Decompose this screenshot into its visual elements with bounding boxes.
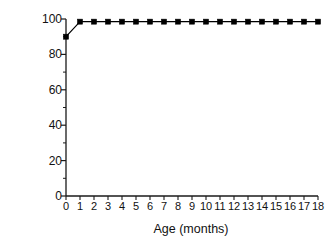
data-point-marker [106, 19, 111, 24]
data-point-marker [204, 19, 209, 24]
axis-ticks [61, 19, 318, 200]
data-series [64, 19, 321, 39]
data-point-marker [78, 19, 83, 24]
data-point-marker [260, 19, 265, 24]
data-point-marker [64, 34, 69, 39]
data-point-marker [232, 19, 237, 24]
data-point-marker [288, 19, 293, 24]
data-point-marker [316, 19, 321, 24]
data-point-marker [274, 19, 279, 24]
axes-group [66, 19, 318, 196]
chart-figure: Infants (%) 020406080100 012345678910111… [0, 0, 336, 248]
data-point-marker [134, 19, 139, 24]
data-point-marker [176, 19, 181, 24]
x-axis-tick-labels: 0123456789101112131415161718 [0, 200, 336, 216]
data-point-marker [92, 19, 97, 24]
x-axis-title: Age (months) [60, 222, 322, 236]
data-point-marker [218, 19, 223, 24]
data-point-marker [302, 19, 307, 24]
data-point-marker [246, 19, 251, 24]
x-axis-tick-label: 18 [306, 200, 330, 212]
data-point-marker [162, 19, 167, 24]
data-point-marker [120, 19, 125, 24]
data-point-marker [190, 19, 195, 24]
data-point-marker [148, 19, 153, 24]
